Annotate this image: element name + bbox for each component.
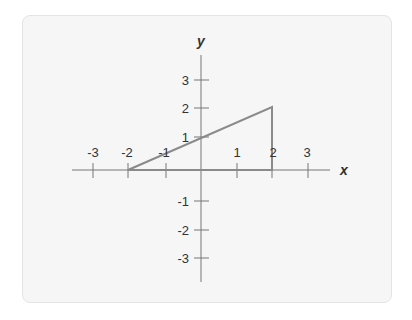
x-tick-label: -1 <box>158 145 170 160</box>
y-tick-label: 3 <box>182 73 189 88</box>
x-tick-label: 3 <box>303 145 310 160</box>
x-axis-label: x <box>339 162 349 178</box>
x-tick-label: 1 <box>233 145 240 160</box>
x-tick-label: 2 <box>269 145 276 160</box>
y-axis-label: y <box>196 33 206 49</box>
y-tick-label: -2 <box>177 223 189 238</box>
x-tick-label: -3 <box>87 145 99 160</box>
y-tick-label: -3 <box>177 251 189 266</box>
x-tick-label: -2 <box>121 145 133 160</box>
y-tick-label: 1 <box>182 130 189 145</box>
y-tick-label: -1 <box>177 194 189 209</box>
triangle-shape <box>128 107 272 170</box>
coordinate-plane: -3 -2 -1 1 2 3 3 2 1 -1 -2 -3 x y <box>0 0 412 320</box>
y-tick-label: 2 <box>182 101 189 116</box>
